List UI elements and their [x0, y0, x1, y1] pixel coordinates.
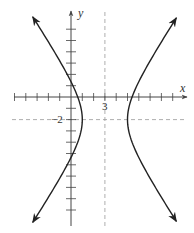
center-y-label: −2	[51, 114, 63, 125]
center-x-label: 3	[102, 101, 108, 112]
y-axis-label: y	[78, 7, 83, 19]
hyperbola-graph	[0, 0, 194, 233]
x-axis-label: x	[180, 82, 185, 94]
